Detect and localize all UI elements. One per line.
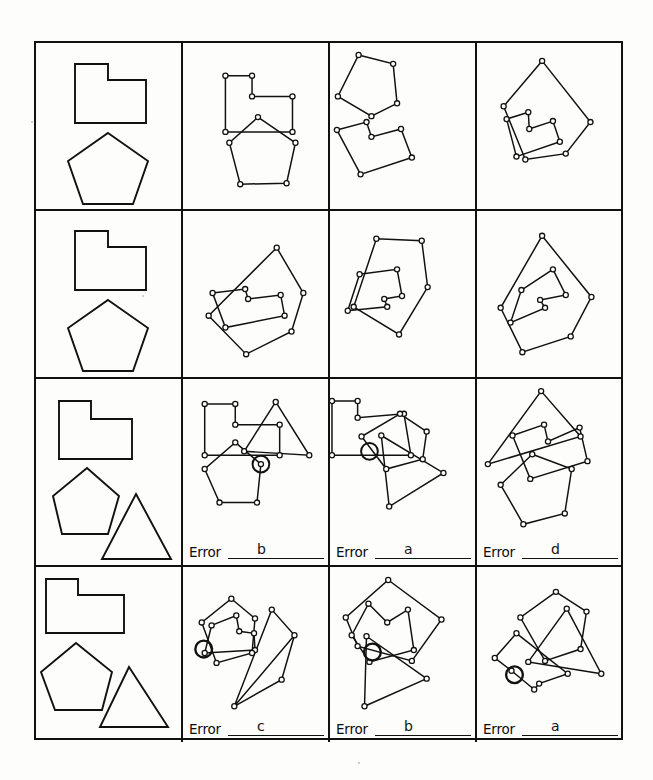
l-shape — [59, 401, 132, 459]
participant-drawing — [330, 43, 475, 209]
pentagon-copy — [209, 248, 304, 355]
error-answer[interactable]: c — [257, 718, 265, 734]
paper-speck — [358, 762, 360, 764]
error-label: Error b — [336, 718, 474, 740]
panel-row — [36, 209, 621, 377]
triangle — [102, 494, 171, 559]
participant-drawing — [477, 43, 621, 209]
error-marker-circle — [506, 666, 523, 683]
drawing-panel — [181, 211, 328, 377]
reference-drawing — [36, 211, 181, 377]
error-label-text: Error — [483, 544, 515, 560]
participant-drawing — [477, 567, 621, 742]
drawing-panel: Error b — [181, 379, 328, 565]
error-answer-line — [375, 735, 471, 736]
error-marker-circle — [361, 443, 378, 460]
error-label: Error a — [336, 541, 474, 563]
error-answer-line — [522, 558, 618, 559]
error-answer[interactable]: d — [551, 541, 560, 557]
drawing-panel — [328, 43, 475, 209]
triangle-copy — [244, 402, 309, 455]
paper-speck — [31, 121, 33, 123]
panel-row: Error c — [36, 565, 621, 742]
drawing-panel — [475, 211, 621, 377]
participant-drawing — [477, 211, 621, 377]
error-answer[interactable]: a — [404, 541, 413, 557]
drawing-panel — [181, 43, 328, 209]
pentagon — [68, 133, 148, 204]
triangle-copy — [381, 436, 443, 507]
drawing-panel: Error a — [328, 379, 475, 565]
pentagon-copy — [362, 414, 427, 469]
pentagon-copy — [501, 454, 572, 524]
pentagon — [41, 643, 112, 710]
pentagon-copy — [504, 61, 591, 160]
vertex-markers — [206, 245, 306, 357]
vertex-markers — [223, 73, 298, 187]
error-label-text: Error — [483, 721, 515, 737]
pentagon-copy — [354, 239, 428, 335]
error-answer-line — [228, 735, 324, 736]
triangle-copy — [234, 610, 294, 707]
error-label-text: Error — [189, 544, 221, 560]
panel-row: Error b — [36, 377, 621, 565]
l-shape — [75, 231, 146, 290]
error-label-text: Error — [336, 544, 368, 560]
error-label: Error b — [189, 541, 327, 563]
l-shape-copy — [332, 401, 411, 455]
reference-drawing — [36, 379, 181, 565]
error-answer[interactable]: b — [404, 718, 413, 734]
error-answer-line — [228, 558, 324, 559]
participant-drawing — [330, 379, 475, 565]
participant-drawing — [183, 567, 328, 742]
reference-drawing — [36, 43, 181, 209]
l-shape — [75, 64, 146, 123]
l-shape — [46, 579, 124, 633]
pentagon — [53, 468, 119, 534]
reference-panel — [36, 567, 181, 742]
drawing-panel: Error b — [328, 567, 475, 742]
error-answer-line — [522, 735, 618, 736]
l-shape-copy — [213, 289, 285, 327]
vertex-markers — [492, 589, 604, 692]
reference-panel — [36, 43, 181, 209]
reference-drawing — [36, 567, 181, 742]
vertex-markers — [345, 236, 430, 337]
error-answer[interactable]: a — [551, 718, 560, 734]
panel-grid: Error b — [34, 41, 623, 740]
triangle-copy — [528, 609, 601, 674]
error-answer-line — [375, 558, 471, 559]
reference-panel — [36, 211, 181, 377]
error-label: Error c — [189, 718, 327, 740]
participant-drawing — [330, 567, 475, 742]
vertex-markers — [485, 389, 590, 527]
drawing-panel — [328, 211, 475, 377]
triangle-copy — [365, 636, 427, 706]
drawing-panel: Error a — [475, 567, 621, 742]
error-label: Error a — [483, 718, 621, 740]
pentagon-copy — [338, 55, 397, 116]
pentagon-copy — [229, 117, 295, 184]
participant-drawing — [477, 379, 621, 565]
participant-drawing — [183, 43, 328, 209]
vertex-markers — [498, 233, 594, 355]
error-answer[interactable]: b — [257, 541, 266, 557]
pentagon-copy — [501, 236, 592, 352]
reference-panel — [36, 379, 181, 565]
error-label-text: Error — [336, 721, 368, 737]
error-label: Error d — [483, 541, 621, 563]
drawing-panel: Error c — [181, 567, 328, 742]
test-sheet: Error b — [0, 0, 653, 780]
vertex-markers — [343, 577, 444, 708]
drawing-panel: Error d — [475, 379, 621, 565]
panel-row — [36, 43, 621, 209]
participant-drawing — [183, 379, 328, 565]
pentagon — [68, 300, 148, 371]
participant-drawing — [183, 211, 328, 377]
participant-drawing — [330, 211, 475, 377]
error-label-text: Error — [189, 721, 221, 737]
l-shape-copy — [225, 76, 292, 132]
drawing-panel — [475, 43, 621, 209]
l-shape-copy — [513, 425, 588, 479]
